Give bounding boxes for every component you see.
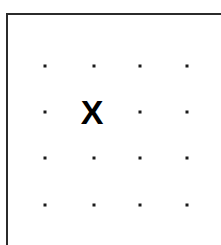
grid-dot: [93, 65, 96, 68]
grid-dot: [44, 111, 47, 114]
grid-dot: [139, 157, 142, 160]
grid-dot: [139, 111, 142, 114]
grid-dot: [139, 204, 142, 207]
grid-dot: [186, 111, 189, 114]
drawing-canvas: X: [0, 0, 221, 245]
grid-dot: [93, 204, 96, 207]
grid-dot: [139, 65, 142, 68]
grid-dot: [44, 65, 47, 68]
dot-grid: X: [0, 0, 221, 245]
grid-dot: [186, 204, 189, 207]
grid-dot: [186, 65, 189, 68]
grid-dot: [186, 157, 189, 160]
grid-dot: [44, 157, 47, 160]
grid-dot: [93, 157, 96, 160]
x-marker: X: [81, 95, 104, 129]
grid-dot: [44, 204, 47, 207]
